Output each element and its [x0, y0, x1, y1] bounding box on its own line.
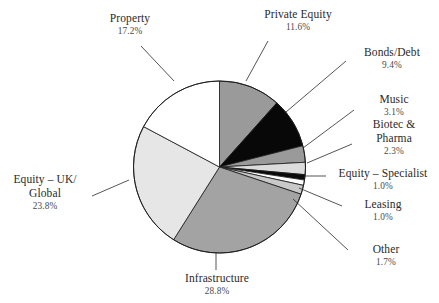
slice-label-bonds-debt-name: Bonds/Debt [348, 46, 436, 60]
slice-label-music: Music 3.1% [358, 93, 430, 118]
slice-label-music-name: Music [358, 93, 430, 107]
slice-label-equity-specialist: Equity – Specialist 1.0% [328, 167, 438, 192]
slice-label-other-percent: 1.7% [350, 257, 422, 268]
leader-line-other [293, 199, 348, 250]
slice-label-biotec-pharma-percent: 2.3% [355, 146, 433, 157]
slice-label-bonds-debt-percent: 9.4% [348, 60, 436, 71]
slice-label-music-percent: 3.1% [358, 107, 430, 118]
slice-label-leasing: Leasing 1.0% [344, 198, 422, 223]
slice-label-leasing-percent: 1.0% [344, 212, 422, 223]
slice-label-leasing-name: Leasing [344, 198, 422, 212]
slice-label-equity-uk-global: Equity – UK/ Global 23.8% [2, 173, 88, 212]
slice-label-other-name: Other [350, 243, 422, 257]
slice-label-bonds-debt: Bonds/Debt 9.4% [348, 46, 436, 71]
leader-line-music [303, 110, 354, 148]
pie-chart-figure: Private Equity 11.6%Bonds/Debt 9.4%Music… [0, 0, 439, 303]
slice-label-infrastructure-name: Infrastructure [158, 272, 276, 286]
leader-line-private-equity [246, 41, 268, 81]
slice-label-equity-specialist-percent: 1.0% [328, 181, 438, 192]
leader-line-bonds-debt [286, 61, 346, 112]
slice-label-private-equity: Private Equity 11.6% [240, 8, 356, 33]
slice-label-private-equity-name: Private Equity [240, 8, 356, 22]
slice-label-property-percent: 17.2% [78, 26, 182, 37]
slice-label-property-name: Property [78, 12, 182, 26]
slice-label-infrastructure: Infrastructure 28.8% [158, 272, 276, 297]
leader-line-biotec-pharma [307, 144, 352, 163]
slice-label-biotec-pharma-name: Biotec & Pharma [355, 118, 433, 145]
slice-label-private-equity-percent: 11.6% [240, 22, 356, 33]
slice-label-biotec-pharma: Biotec & Pharma 2.3% [355, 118, 433, 157]
slice-label-other: Other 1.7% [350, 243, 422, 268]
slice-label-property: Property 17.2% [78, 12, 182, 37]
leader-line-property [141, 46, 174, 81]
slice-label-equity-uk-global-name: Equity – UK/ Global [2, 173, 88, 200]
slice-label-equity-specialist-name: Equity – Specialist [328, 167, 438, 181]
leader-line-equity-uk-global [92, 180, 129, 196]
slice-label-infrastructure-percent: 28.8% [158, 286, 276, 297]
slice-label-equity-uk-global-percent: 23.8% [2, 201, 88, 212]
pie-slices-group: Private Equity 11.6%Bonds/Debt 9.4%Music… [134, 81, 306, 253]
